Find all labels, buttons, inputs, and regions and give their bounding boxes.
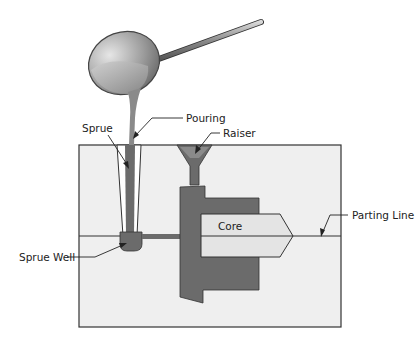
sprue-well (120, 232, 142, 251)
runner (142, 234, 180, 239)
sprue-label: Sprue (82, 122, 113, 134)
raiser-label: Raiser (223, 127, 256, 139)
ladle-handle (156, 22, 261, 60)
parting-line-label: Parting Line (352, 209, 414, 221)
casting-diagram: Core Pouring Sprue Raiser Parting Line S… (0, 0, 419, 345)
ladle (80, 22, 169, 105)
sprue-well-label: Sprue Well (19, 251, 75, 263)
pouring-label: Pouring (186, 112, 226, 124)
sprue-metal (125, 145, 135, 236)
core-label: Core (218, 220, 242, 232)
